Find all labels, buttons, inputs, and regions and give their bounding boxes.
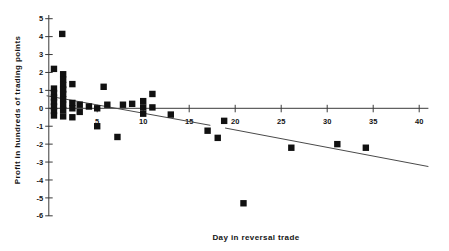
y-tick-label: -4 <box>37 176 44 185</box>
y-tick-label: -1 <box>37 122 44 131</box>
data-point-marker <box>334 141 340 147</box>
y-tick-label: 5 <box>39 14 43 23</box>
data-point-marker <box>86 103 92 109</box>
data-point-marker <box>149 91 155 97</box>
y-tick-label: 3 <box>39 50 43 59</box>
data-point-marker <box>77 102 83 108</box>
data-point-marker <box>94 123 100 129</box>
data-point-marker <box>215 135 221 141</box>
x-tick-label: 40 <box>415 117 423 126</box>
x-tick-label: 10 <box>139 117 147 126</box>
data-point-marker <box>60 113 66 119</box>
x-axis-title: Day in reversal trade <box>212 233 299 242</box>
x-tick-label: 30 <box>323 117 331 126</box>
y-tick-label: 0 <box>39 104 43 113</box>
y-tick-label: 2 <box>39 68 43 77</box>
y-tick-label: -3 <box>37 158 44 167</box>
scatter-plot-canvas: 543210-1-2-3-4-5-6510152025303540 <box>0 0 449 251</box>
data-point-marker <box>240 200 246 206</box>
data-point-marker <box>69 105 75 111</box>
y-tick-label: 1 <box>39 86 43 95</box>
data-point-marker <box>69 114 75 120</box>
data-point-marker <box>120 102 126 108</box>
y-tick-label: -2 <box>37 140 44 149</box>
x-tick-label: 25 <box>277 117 285 126</box>
data-point-marker <box>51 112 57 118</box>
data-point-marker <box>221 118 227 124</box>
data-point-marker <box>94 105 100 111</box>
data-point-marker <box>363 145 369 151</box>
y-axis-title: Profit in hundreds of trading points <box>13 36 22 185</box>
data-point-marker <box>59 31 65 37</box>
data-point-marker <box>140 110 146 116</box>
data-point-marker <box>149 104 155 110</box>
y-tick-label: 4 <box>39 32 44 41</box>
data-point-marker <box>140 104 146 110</box>
data-point-marker <box>288 145 294 151</box>
data-point-marker <box>204 128 210 134</box>
data-point-marker <box>104 102 110 108</box>
data-point-marker <box>60 107 66 113</box>
data-point-marker <box>77 109 83 115</box>
data-point-marker <box>114 134 120 140</box>
data-point-marker <box>168 111 174 117</box>
data-point-marker <box>129 101 135 107</box>
data-point-marker <box>69 81 75 87</box>
x-tick-label: 20 <box>231 117 239 126</box>
y-tick-label: -6 <box>37 211 44 220</box>
scatter-chart-figure: 543210-1-2-3-4-5-6510152025303540 Profit… <box>0 0 449 251</box>
x-tick-label: 35 <box>369 117 377 126</box>
y-tick-label: -5 <box>37 194 44 203</box>
data-point-marker <box>51 66 57 72</box>
data-point-marker <box>100 84 106 90</box>
data-point-marker <box>140 98 146 104</box>
trend-line <box>225 128 428 167</box>
